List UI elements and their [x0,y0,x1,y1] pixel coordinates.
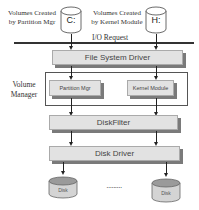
disk-filter-box: DiskFilter [49,115,178,130]
disk-driver-box: Disk Driver [49,146,180,161]
label-line: Manager [4,90,44,100]
volume-architecture-diagram: Volumes Created by Partition Mgr Volumes… [0,0,199,210]
arrow-down-icon [164,173,168,177]
label-line: by Partition Mgr [4,18,60,27]
label-line: Volume [4,80,44,90]
io-request-bus-line [14,42,194,44]
disk-right-label: Disk [151,190,181,196]
disk-ellipsis: ......... [98,181,130,190]
volume-h-label: H: [145,15,167,25]
label-line: Volumes Created [90,9,144,18]
volume-manager-label: Volume Manager [4,80,44,100]
label-line: by Kernel Module [90,18,144,27]
partition-mgr-box: Partition Mgr [49,80,101,96]
io-request-label: I/O Request [80,33,140,42]
arrow-down-icon [61,171,65,175]
disk-left-label: Disk [48,187,78,193]
partition-mgr-volumes-label: Volumes Created by Partition Mgr [4,9,60,27]
kernel-module-volumes-label: Volumes Created by Kernel Module [90,9,144,27]
volume-c-label: C: [60,15,82,25]
kernel-module-box: Kernel Module [127,80,174,96]
label-line: Volumes Created [4,9,60,18]
file-system-driver-box: File System Driver [52,50,183,65]
